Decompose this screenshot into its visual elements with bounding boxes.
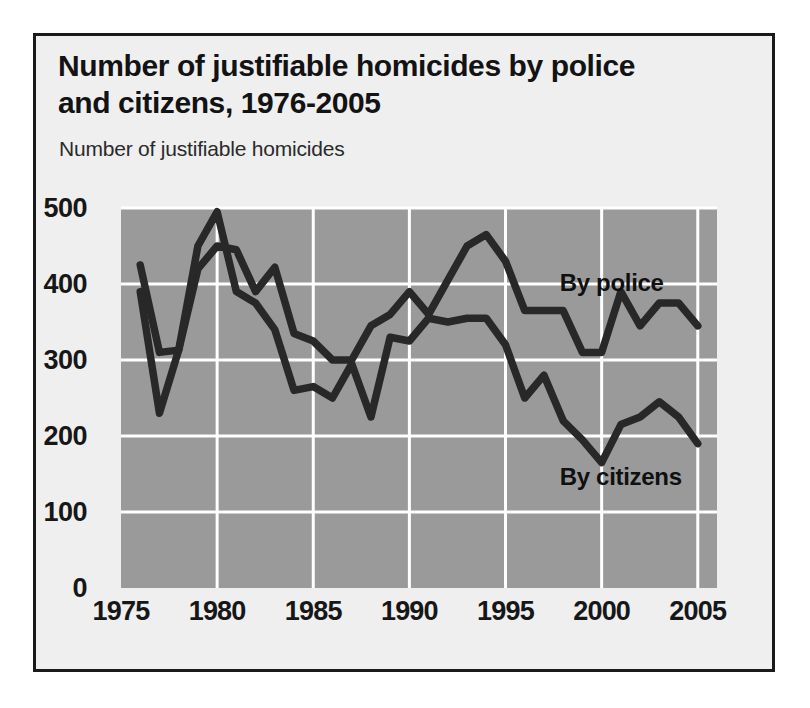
x-tick-label: 1980 bbox=[162, 596, 272, 627]
series-line-by-citizens bbox=[140, 212, 698, 463]
y-tick-label: 200 bbox=[9, 421, 87, 452]
chart-canvas bbox=[36, 36, 778, 675]
y-tick-label: 500 bbox=[9, 193, 87, 224]
annotation-by-citizens: By citizens bbox=[560, 463, 682, 491]
x-tick-label: 1985 bbox=[258, 596, 368, 627]
y-tick-label: 100 bbox=[9, 497, 87, 528]
x-tick-label: 1995 bbox=[451, 596, 561, 627]
x-tick-label: 2005 bbox=[643, 596, 753, 627]
x-tick-label: 1990 bbox=[354, 596, 464, 627]
y-tick-label: 300 bbox=[9, 345, 87, 376]
y-tick-label: 400 bbox=[9, 269, 87, 300]
chart-figure-frame: Number of justifiable homicides by polic… bbox=[33, 33, 775, 672]
x-tick-label: 2000 bbox=[547, 596, 657, 627]
plot-wrapper: 5004003002001000 19751980198519901995200… bbox=[36, 36, 778, 675]
data-series-lines bbox=[140, 212, 698, 463]
x-tick-label: 1975 bbox=[66, 596, 176, 627]
annotation-by-police: By police bbox=[560, 269, 664, 297]
gridlines bbox=[121, 208, 717, 588]
